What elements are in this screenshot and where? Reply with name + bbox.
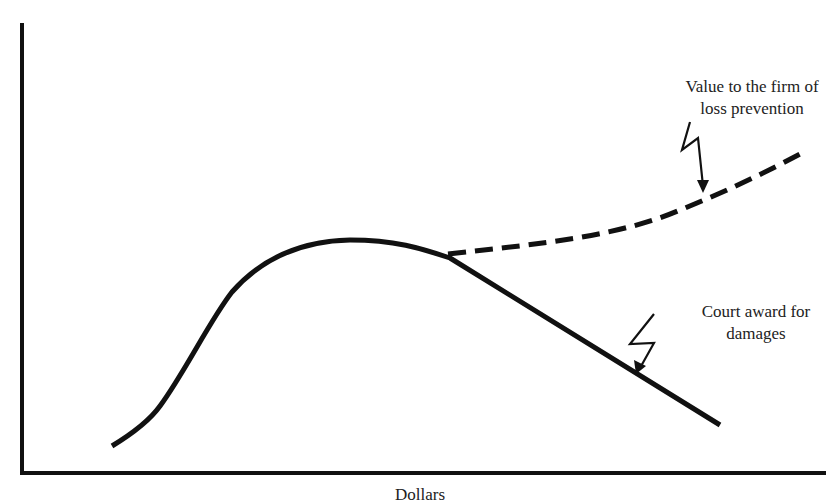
loss-prevention-label-line2: loss prevention [672, 98, 832, 120]
lightning-arrow-icon [630, 314, 654, 374]
loss-prevention-label-line1: Value to the firm of [672, 76, 832, 98]
loss-prevention-label: Value to the firm of loss prevention [672, 76, 832, 120]
loss-prevention-curve [448, 154, 800, 254]
diagram-canvas [0, 0, 836, 500]
court-award-label: Court award for damages [676, 301, 836, 345]
court-award-label-line1: Court award for [676, 301, 836, 323]
lightning-arrow-icon [682, 122, 709, 193]
x-axis-label: Dollars [380, 484, 460, 500]
court-award-label-line2: damages [676, 323, 836, 345]
court-award-curve [112, 240, 720, 446]
